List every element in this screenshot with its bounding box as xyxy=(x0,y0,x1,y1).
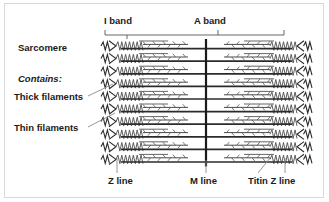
z-line-anchor-left xyxy=(109,41,116,51)
label-thick-filaments: Thick filaments xyxy=(14,92,83,102)
z-line-anchor-right xyxy=(297,53,304,63)
label-z-line: Z line xyxy=(108,176,133,186)
z-line-anchor-left xyxy=(109,91,116,101)
z-line-anchor-left xyxy=(109,66,116,76)
titin-z-line-right xyxy=(304,80,313,88)
label-thin-filaments: Thin filaments xyxy=(14,123,78,133)
z-line-anchor-left xyxy=(109,53,116,63)
label-titin-z-line: Titin Z line xyxy=(248,176,295,186)
z-line-anchor-left xyxy=(109,142,116,152)
z-line-anchor-right xyxy=(297,129,304,139)
label-contains: Contains: xyxy=(18,74,62,84)
titin-z-line-right xyxy=(304,130,313,138)
titin-z-line-left xyxy=(101,155,110,163)
titin-z-line-right xyxy=(304,155,313,163)
titin-z-line-left xyxy=(101,105,110,113)
z-line-anchor-right xyxy=(297,142,304,152)
z-line-anchor-right xyxy=(297,116,304,126)
label-m-line: M line xyxy=(190,176,217,186)
titin-z-line-right xyxy=(304,92,313,100)
z-line-anchor-right xyxy=(297,104,304,114)
titin-z-line-left xyxy=(101,42,110,50)
titin-z-line-left xyxy=(101,67,110,75)
titin-z-line-right xyxy=(304,42,313,50)
label-sarcomere: Sarcomere xyxy=(18,43,67,53)
z-line-anchor-right xyxy=(297,66,304,76)
titin-z-line-left xyxy=(101,118,110,126)
z-line-anchor-left xyxy=(109,116,116,126)
z-line-anchor-left xyxy=(109,104,116,114)
z-line-anchor-right xyxy=(297,41,304,51)
leader-thick-filaments xyxy=(88,84,113,96)
titin-z-line-left xyxy=(101,55,110,63)
titin-z-line-right xyxy=(304,55,313,63)
titin-z-line-right xyxy=(304,118,313,126)
titin-z-line-right xyxy=(304,67,313,75)
z-line-anchor-left xyxy=(109,154,116,164)
titin-z-line-left xyxy=(101,143,110,151)
z-line-anchor-right xyxy=(297,154,304,164)
titin-z-line-left xyxy=(101,92,110,100)
z-line-anchor-left xyxy=(109,129,116,139)
z-line-anchor-right xyxy=(297,79,304,89)
label-i-band: I band xyxy=(104,16,132,26)
label-a-band: A band xyxy=(194,16,226,26)
titin-z-line-right xyxy=(304,105,313,113)
sarcomere-diagram-page: I band A band Sarcomere Contains: Thick … xyxy=(0,0,329,202)
titin-z-line-right xyxy=(304,143,313,151)
z-line-anchor-right xyxy=(297,91,304,101)
titin-z-line-left xyxy=(101,130,110,138)
